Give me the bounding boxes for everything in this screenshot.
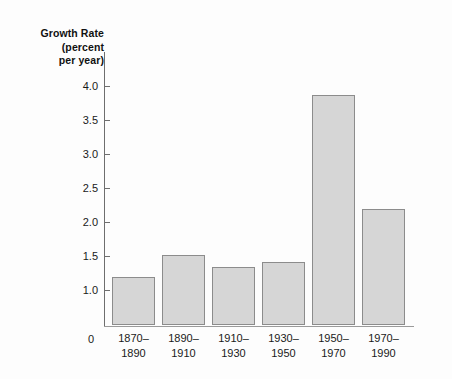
bar bbox=[112, 277, 155, 325]
y-axis-tick bbox=[104, 86, 110, 87]
x-axis-category-label: 1970–1990 bbox=[352, 331, 416, 361]
bar bbox=[162, 255, 205, 325]
x-axis-labels: 1870–18901890–19101910–19301930–19501950… bbox=[104, 331, 414, 371]
bar bbox=[262, 262, 305, 325]
y-axis-tick-label: 3.5 bbox=[58, 114, 98, 126]
bar bbox=[312, 95, 355, 325]
y-axis-line bbox=[104, 52, 105, 327]
y-axis-tick-label: 2.5 bbox=[58, 182, 98, 194]
y-axis-tick-label: 4.0 bbox=[58, 80, 98, 92]
y-axis-zero-label: 0 bbox=[54, 333, 94, 345]
y-axis-tick-label: 1.0 bbox=[58, 284, 98, 296]
y-axis-tick bbox=[104, 290, 110, 291]
x-axis-category-line: 1970– bbox=[352, 331, 416, 346]
plot-area bbox=[104, 52, 414, 326]
x-axis-line bbox=[104, 326, 414, 327]
y-axis-tick bbox=[104, 256, 110, 257]
y-axis-tick bbox=[104, 154, 110, 155]
y-axis-tick-label: 3.0 bbox=[58, 148, 98, 160]
y-axis-tick bbox=[104, 188, 110, 189]
bar bbox=[212, 267, 255, 325]
y-axis-tick bbox=[104, 120, 110, 121]
x-axis-category-line: 1990 bbox=[352, 346, 416, 361]
axis-title-line-1: Growth Rate bbox=[18, 27, 104, 41]
y-axis-tick-label: 1.5 bbox=[58, 250, 98, 262]
chart-page: Growth Rate (percent per year) 1.01.52.0… bbox=[0, 0, 452, 379]
y-axis-tick bbox=[104, 222, 110, 223]
bar bbox=[362, 209, 405, 325]
y-axis-labels: 1.01.52.02.53.03.54.0 bbox=[54, 52, 98, 327]
y-axis-tick-label: 2.0 bbox=[58, 216, 98, 228]
